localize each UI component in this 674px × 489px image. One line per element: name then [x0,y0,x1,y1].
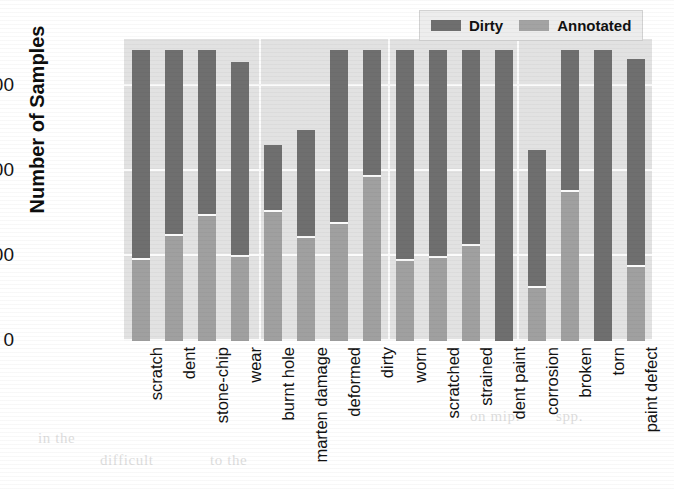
legend: Dirty Annotated [419,10,643,41]
bar-segment-annotated [528,286,546,341]
bar-segment-annotated [462,244,480,341]
legend-label-dirty: Dirty [469,17,503,34]
bar-chart-figure: 0100020003000 Number of Samples scratchd… [0,0,674,489]
bar-segment-annotated [132,258,150,341]
bar-segment-annotated [396,259,414,341]
bar-segment-annotated [561,190,579,341]
bar-segment-annotated [231,255,249,341]
x-tick-label-deformed: deformed [346,347,363,417]
x-tick-label-dent-paint: dent paint [511,347,528,419]
bar-scratched[interactable] [429,50,447,341]
legend-entry-annotated[interactable]: Annotated [519,17,631,34]
x-tick-label-burnt-hole: burnt hole [280,347,297,420]
bar-segment-annotated [429,256,447,341]
bar-segment-annotated [165,234,183,341]
x-tick-label-corrosion: corrosion [544,347,561,415]
x-tick-label-worn: worn [412,347,429,383]
bar-segment-annotated [627,265,645,341]
bar-marten-damage[interactable] [297,130,315,341]
x-tick-label-scratch: scratch [148,347,165,400]
bar-worn[interactable] [396,50,414,341]
x-tick-label-stone-chip: stone-chip [214,347,231,423]
bar-segment-dirty [594,50,612,341]
x-tick-label-wear: wear [247,347,264,383]
bar-segment-annotated [264,210,282,341]
bar-segment-dirty [495,50,513,341]
bar-strained[interactable] [462,50,480,341]
bar-segment-annotated [363,175,381,341]
x-tick-label-broken: broken [577,347,594,397]
bar-segment-annotated [297,236,315,341]
bars-layer [124,39,652,341]
y-tick-label-2000: 2000 [0,159,14,181]
bar-broken[interactable] [561,50,579,341]
x-tick-label-marten-damage: marten damage [313,347,330,463]
bar-dent[interactable] [165,50,183,341]
legend-label-annotated: Annotated [557,17,631,34]
bar-deformed[interactable] [330,50,348,341]
bar-segment-annotated [198,214,216,341]
bar-paint-defect[interactable] [627,59,645,341]
y-tick-label-0: 0 [3,329,14,351]
legend-entry-dirty[interactable]: Dirty [431,17,503,34]
bar-segment-annotated [330,222,348,341]
bar-wear[interactable] [231,62,249,341]
y-tick-label-1000: 1000 [0,244,14,266]
x-tick-label-dent: dent [181,347,198,379]
bar-corrosion[interactable] [528,150,546,341]
bar-burnt-hole[interactable] [264,145,282,341]
x-axis: scratchdentstone-chipwearburnt holemarte… [124,341,652,489]
bar-dent-paint[interactable] [495,50,513,341]
x-tick-label-dirty: dirty [379,347,396,378]
x-tick-label-scratched: scratched [445,347,462,419]
bar-dirty[interactable] [363,50,381,341]
y-axis-label: Number of Samples [26,5,49,235]
legend-swatch-dirty-icon [431,20,461,31]
bar-torn[interactable] [594,50,612,341]
x-tick-label-paint-defect: paint defect [643,347,660,432]
bar-scratch[interactable] [132,50,150,341]
bar-stone-chip[interactable] [198,50,216,341]
x-tick-label-strained: strained [478,347,495,406]
legend-swatch-annotated-icon [519,20,549,31]
y-tick-label-3000: 3000 [0,74,14,96]
x-tick-label-torn: torn [610,347,627,375]
